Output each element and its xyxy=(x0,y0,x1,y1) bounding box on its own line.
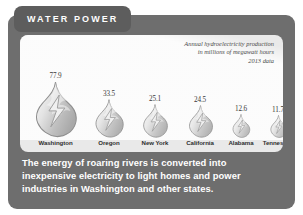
bar-label: Oregon xyxy=(98,140,119,146)
bar-value: 25.1 xyxy=(149,96,161,103)
water-droplet-icon xyxy=(93,99,125,138)
bar-label: Washington xyxy=(38,140,72,146)
bar-value: 33.5 xyxy=(103,91,115,98)
bar-label: Alabama xyxy=(228,140,253,146)
bar-label: California xyxy=(186,140,214,146)
bar-value: 11.7 xyxy=(272,107,283,114)
caption-line-3: industries in Washington and other state… xyxy=(22,182,284,195)
chart-bar: 25.1 xyxy=(133,96,177,146)
bar-value: 24.5 xyxy=(194,97,206,104)
header-tab: WATER POWER xyxy=(14,6,131,32)
chart-bar: 11.7 xyxy=(258,107,283,146)
droplet-bar-chart: 77.9 xyxy=(20,35,283,152)
water-droplet-icon xyxy=(231,114,251,138)
caption-line-1: The energy of roaring rivers is converte… xyxy=(22,156,284,169)
water-power-infographic: WATER POWER Annual hydroelectricity prod… xyxy=(8,6,295,209)
water-droplet-icon xyxy=(141,104,169,138)
bar-value: 12.6 xyxy=(235,106,247,113)
chart-panel: Annual hydroelectricity production in mi… xyxy=(20,35,283,152)
water-droplet-icon xyxy=(269,115,284,138)
bar-label: New York xyxy=(142,140,169,146)
bar-label: Tennessee xyxy=(263,140,283,146)
caption: The energy of roaring rivers is converte… xyxy=(22,156,284,196)
water-droplet-icon xyxy=(32,81,79,138)
caption-line-2: inexpensive electricity to light homes a… xyxy=(22,169,284,182)
water-droplet-icon xyxy=(187,105,214,138)
chart-bar: 12.6 xyxy=(223,106,259,146)
page-title: WATER POWER xyxy=(27,15,118,24)
chart-bar: 24.5 xyxy=(177,97,223,146)
chart-bar: 33.5 xyxy=(87,91,131,146)
bar-value: 77.9 xyxy=(49,73,61,80)
chart-bar: 77.9 xyxy=(27,73,84,146)
